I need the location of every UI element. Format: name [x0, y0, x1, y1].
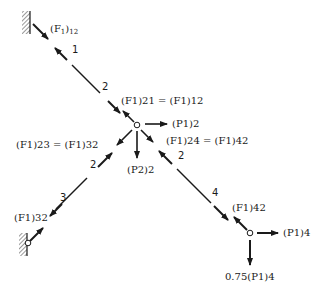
label-p2-2: (P2)2 [127, 165, 154, 175]
truss-free-body-diagram: (F1)12 1 2 (F1)21 = (F1)12 (P1)2 (F1)23 … [0, 0, 313, 292]
fixed-support-top-icon [22, 11, 30, 34]
member-number-2-upper: 2 [102, 82, 108, 92]
label-f1-42-right: (F1)42 [232, 203, 266, 213]
member-number-4: 4 [212, 188, 218, 198]
member-number-3: 3 [60, 193, 66, 203]
member-number-2-left: 2 [90, 160, 96, 170]
label-075-p1-4: 0.75(P1)4 [225, 272, 275, 282]
label-p1-4: (P1)4 [283, 228, 310, 238]
label-p1-2: (P1)2 [172, 119, 199, 129]
label-f1-32-bottom: (F1)32 [14, 213, 48, 223]
label-f1-21-equals-f1-12: (F1)21 = (F1)12 [121, 96, 203, 106]
member-number-2-right: 2 [178, 151, 184, 161]
member-number-1: 1 [72, 45, 78, 55]
label-f1-12-top: (F1)12 [50, 24, 78, 36]
label-f1-24-equals-f1-42: (F1)24 = (F1)42 [166, 136, 248, 146]
label-f1-23-equals-f1-32: (F1)23 = (F1)32 [16, 140, 98, 150]
